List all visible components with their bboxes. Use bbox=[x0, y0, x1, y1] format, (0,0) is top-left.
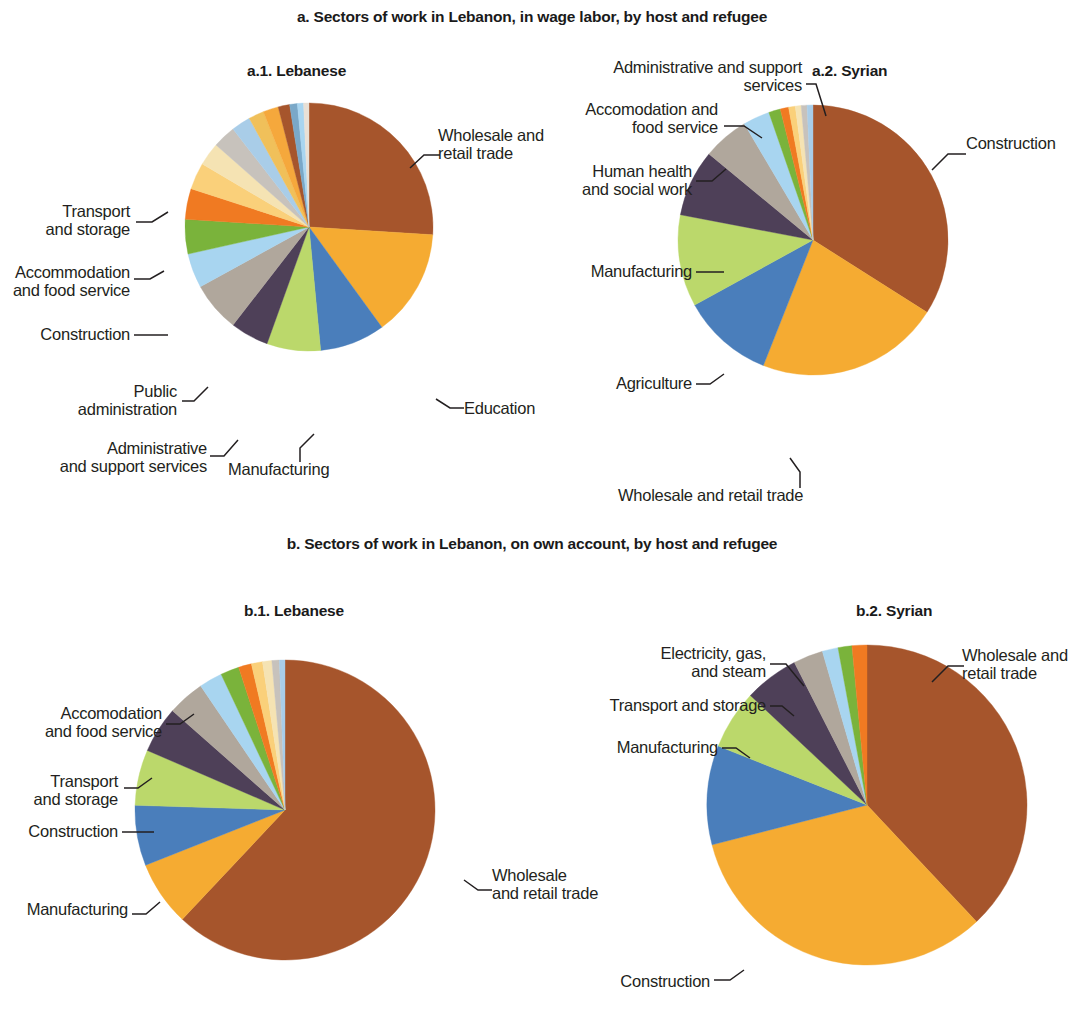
pie-a2-canvas bbox=[677, 104, 949, 376]
leader-a1-admin-support bbox=[208, 434, 242, 460]
label-a1-accommodation: Accommodation and food service bbox=[6, 263, 130, 300]
leader-b1-wholesale bbox=[462, 872, 496, 898]
pie-a1-canvas bbox=[184, 102, 434, 352]
subtitle-b1: b.1. Lebanese bbox=[244, 602, 344, 620]
label-b1-wholesale: Wholesale and retail trade bbox=[492, 866, 598, 903]
pie-b1-canvas bbox=[134, 659, 436, 961]
pie-chart-a1 bbox=[184, 102, 434, 352]
label-a1-transport: Transport and storage bbox=[30, 202, 130, 239]
pie-chart-b1 bbox=[134, 659, 436, 961]
label-b1-manufacturing: Manufacturing bbox=[8, 900, 128, 918]
label-a2-wholesale: Wholesale and retail trade bbox=[618, 486, 803, 504]
label-a1-construction: Construction bbox=[12, 325, 130, 343]
leader-a1-transport bbox=[134, 208, 174, 230]
pie-chart-b2 bbox=[706, 644, 1028, 966]
label-b2-wholesale: Wholesale and retail trade bbox=[962, 646, 1068, 683]
subtitle-a1: a.1. Lebanese bbox=[247, 62, 346, 80]
label-a2-manufacturing: Manufacturing bbox=[540, 262, 692, 280]
label-a2-human-health: Human health and social work bbox=[546, 162, 692, 199]
leader-a1-accommodation bbox=[132, 265, 170, 287]
subtitle-b2: b.2. Syrian bbox=[856, 602, 932, 620]
label-b2-electricity: Electricity, gas, and steam bbox=[600, 644, 766, 681]
pie-chart-a2 bbox=[677, 104, 949, 376]
leader-a1-public-admin bbox=[180, 381, 212, 407]
label-b1-transport: Transport and storage bbox=[10, 772, 118, 809]
pie-b2-canvas bbox=[706, 644, 1028, 966]
label-a2-agriculture: Agriculture bbox=[552, 374, 692, 392]
panel-a-title: a. Sectors of work in Lebanon, in wage l… bbox=[0, 8, 1064, 26]
label-a1-manufacturing: Manufacturing bbox=[228, 460, 329, 478]
leader-a1-construction bbox=[132, 327, 172, 345]
subtitle-a2: a.2. Syrian bbox=[812, 62, 887, 80]
label-b2-transport: Transport and storage bbox=[534, 696, 766, 714]
label-b2-construction: Construction bbox=[530, 972, 710, 990]
label-a2-admin-support: Administrative and support services bbox=[574, 58, 802, 95]
pie-slice bbox=[309, 103, 433, 235]
panel-b-title: b. Sectors of work in Lebanon, on own ac… bbox=[0, 535, 1064, 553]
leader-a1-education bbox=[434, 396, 468, 420]
label-b1-accommodation: Accomodation and food service bbox=[4, 704, 162, 741]
label-b1-construction: Construction bbox=[6, 822, 118, 840]
leader-a2-wholesale bbox=[786, 456, 812, 490]
label-a1-public-admin: Public administration bbox=[30, 382, 177, 419]
label-a2-construction: Construction bbox=[966, 134, 1056, 152]
label-b2-manufacturing: Manufacturing bbox=[570, 738, 718, 756]
leader-b2-construction bbox=[712, 964, 750, 986]
label-a1-education: Education bbox=[464, 399, 535, 417]
label-a1-wholesale: Wholesale and retail trade bbox=[438, 126, 544, 163]
label-a1-admin-support: Administrative and support services bbox=[24, 439, 207, 476]
label-a2-accommodation: Accomodation and food service bbox=[554, 100, 718, 137]
